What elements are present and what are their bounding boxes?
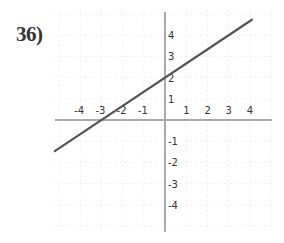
x-tick-label: 1	[183, 105, 189, 116]
y-tick-label: 1	[168, 94, 174, 105]
x-tick-label: -4	[74, 105, 84, 116]
graph-line	[55, 20, 252, 151]
x-tick-label: 3	[226, 105, 232, 116]
y-tick-label: -1	[168, 136, 178, 147]
coordinate-plane: -4-3-2-11234 4321-1-2-3-4	[0, 0, 284, 243]
axes	[55, 12, 272, 232]
x-tick-label: 2	[204, 105, 210, 116]
x-tick-label: -1	[138, 105, 148, 116]
y-tick-label: -3	[168, 179, 178, 190]
y-tick-label: 4	[168, 30, 174, 41]
y-tick-label: -4	[168, 200, 178, 211]
y-tick-label: 3	[168, 51, 174, 62]
y-tick-label: -2	[168, 157, 178, 168]
plotted-line	[55, 20, 252, 151]
x-tick-labels: -4-3-2-11234	[74, 105, 253, 116]
x-tick-label: -3	[95, 105, 105, 116]
x-tick-label: 4	[247, 105, 253, 116]
